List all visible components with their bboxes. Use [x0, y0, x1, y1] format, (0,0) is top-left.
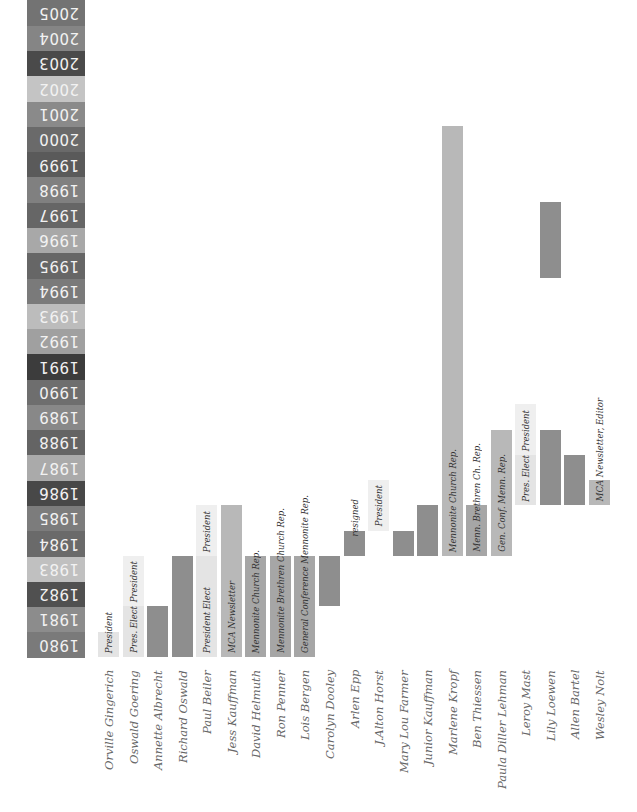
year-cell: 1982	[27, 581, 85, 607]
person-name: David Helmuth	[245, 670, 266, 795]
year-cell: 1989	[27, 404, 85, 430]
bar-label: Pres. Elect	[123, 606, 144, 653]
year-label: 1980	[27, 636, 85, 654]
person-name: Paula Diller Lehman	[491, 670, 512, 795]
person-name: Jess Kauffman	[221, 670, 242, 795]
bar-label: President	[196, 511, 217, 552]
year-label: 1988	[27, 433, 85, 451]
year-label: 1994	[27, 282, 85, 300]
year-label: 1992	[27, 332, 85, 350]
year-cell: 1986	[27, 480, 85, 506]
year-cell: 2004	[27, 25, 85, 51]
timeline-bar: MCA Newsletter, Editor	[589, 480, 610, 505]
timeline-bar: President	[368, 480, 389, 531]
timeline-chart: 1980198119821983198419851986198719881989…	[0, 0, 637, 812]
bar-label: Mennonite Brethren Church Rep.	[270, 508, 291, 653]
year-cell: 1990	[27, 379, 85, 405]
person-name: Ron Penner	[270, 670, 291, 795]
bar-label: MCA Newsletter, Editor	[589, 398, 610, 501]
person-name: Lois Bergen	[294, 670, 315, 795]
bar-label: Mennonite Church Rep.	[245, 550, 266, 653]
year-cell: 1981	[27, 606, 85, 632]
person-name: Wesley Nolt	[589, 670, 610, 795]
year-label: 2001	[27, 105, 85, 123]
person-name: Junior Kauffman	[417, 670, 438, 795]
person-name: Leroy Mast	[515, 670, 536, 795]
timeline-bar	[417, 505, 438, 556]
timeline-bar	[147, 606, 168, 657]
person-name: Orville Gingerich	[98, 670, 119, 795]
timeline-bar: General Conference Mennonite Rep.	[294, 556, 315, 657]
year-cell: 1994	[27, 278, 85, 304]
person-name: Marlene Kropf	[442, 670, 463, 795]
year-cell: 1996	[27, 227, 85, 253]
person-name: Oswald Goering	[123, 670, 144, 795]
year-cell: 1997	[27, 202, 85, 228]
bar-label: Pres. Elect	[515, 455, 536, 502]
person-name: J.Alton Horst	[368, 670, 389, 795]
year-cell: 2003	[27, 51, 85, 77]
bar-label: President	[368, 485, 389, 526]
year-cell: 1995	[27, 253, 85, 279]
bar-label: General Conference Mennonite Rep.	[294, 495, 315, 653]
year-label: 1985	[27, 509, 85, 527]
timeline-bar: Mennonite Church Rep.	[245, 556, 266, 657]
person-name: Paul Beiler	[196, 670, 217, 795]
year-cell: 1999	[27, 152, 85, 178]
year-cell: 2005	[27, 0, 85, 26]
timeline-bar	[540, 430, 561, 506]
timeline-bar: President	[98, 632, 119, 657]
year-label: 1981	[27, 610, 85, 628]
person-name: Annette Albrecht	[147, 670, 168, 795]
year-label: 2000	[27, 130, 85, 148]
bar-label: Mennonite Church Rep.	[442, 449, 463, 552]
timeline-bar: Gen. Conf. Menn. Rep.	[491, 430, 512, 556]
year-label: 1984	[27, 535, 85, 553]
year-label: 1987	[27, 459, 85, 477]
year-label: 1986	[27, 484, 85, 502]
timeline-bar: Pres. Elect	[123, 606, 144, 657]
year-label: 1983	[27, 560, 85, 578]
year-cell: 1991	[27, 354, 85, 380]
timeline-bar: Pres. Elect	[515, 455, 536, 506]
timeline-bar: President	[123, 556, 144, 607]
year-label: 2003	[27, 54, 85, 72]
timeline-bar	[540, 202, 561, 278]
person-name: Mary Lou Farmer	[393, 670, 414, 795]
person-name: Arlen Epp	[344, 670, 365, 795]
timeline-bar: Mennonite Brethren Church Rep.	[270, 556, 291, 657]
bar-label: President Elect	[196, 587, 217, 653]
year-cell: 2002	[27, 76, 85, 102]
year-label: 1990	[27, 383, 85, 401]
year-cell: 1987	[27, 455, 85, 481]
timeline-bar	[172, 556, 193, 657]
year-label: 2005	[27, 4, 85, 22]
bar-label: MCA Newsletter	[221, 581, 242, 653]
bar-note: resigned	[344, 501, 365, 531]
year-label: 1982	[27, 585, 85, 603]
year-cell: 1985	[27, 505, 85, 531]
bar-label: President	[123, 561, 144, 602]
timeline-bar: Mennonite Church Rep.	[442, 126, 463, 556]
person-name: Allen Bartel	[564, 670, 585, 795]
timeline-bar: President Elect	[196, 556, 217, 657]
year-label: 1995	[27, 257, 85, 275]
note-label: resigned	[344, 499, 365, 537]
person-name: Ben Thiessen	[466, 670, 487, 795]
year-label: 1989	[27, 408, 85, 426]
year-label: 1999	[27, 156, 85, 174]
year-cell: 1983	[27, 556, 85, 582]
timeline-bar: Menn. Brethren Ch. Rep.	[466, 505, 487, 556]
timeline-bar	[319, 556, 340, 607]
person-name: Lily Loewen	[540, 670, 561, 795]
year-cell: 2001	[27, 101, 85, 127]
person-name: Richard Oswald	[172, 670, 193, 795]
timeline-bar	[393, 531, 414, 556]
bar-label: President	[98, 612, 119, 653]
person-name: Carolyn Dooley	[319, 670, 340, 795]
year-cell: 2000	[27, 126, 85, 152]
timeline-bar: President	[515, 404, 536, 455]
bar-label: President	[515, 410, 536, 451]
timeline-bar	[564, 455, 585, 506]
year-cell: 1988	[27, 430, 85, 456]
